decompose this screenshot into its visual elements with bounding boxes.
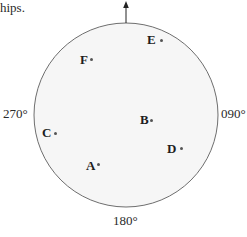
bearing-label-270: 270° (3, 107, 28, 121)
north-arrow-icon (123, 1, 129, 23)
point-e-label: E (147, 33, 156, 46)
bearing-label-180: 180° (113, 214, 138, 228)
bearing-diagram (0, 0, 247, 237)
point-b-label: B (140, 113, 149, 126)
point-d-label: D (167, 142, 176, 155)
point-f-label: F (80, 53, 88, 66)
bearing-circle (34, 23, 218, 207)
bearing-label-090: 090° (221, 107, 246, 121)
point-c-dot (54, 132, 57, 135)
point-d-dot (180, 147, 183, 150)
point-f-dot (90, 58, 93, 61)
point-a-label: A (86, 159, 95, 172)
point-a-dot (97, 163, 100, 166)
point-b-dot (150, 119, 153, 122)
point-e-dot (160, 39, 163, 42)
point-c-label: C (42, 126, 51, 139)
